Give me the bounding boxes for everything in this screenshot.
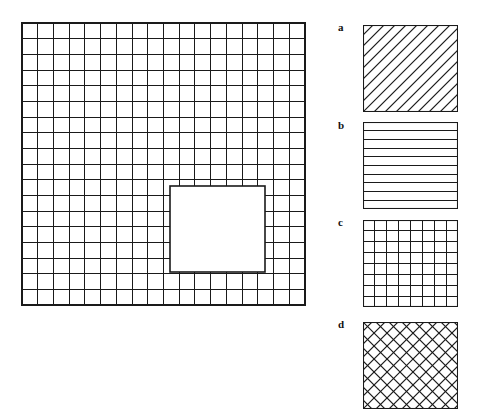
pattern-key: a b c xyxy=(330,0,480,413)
swatch-a-diagonal-hatch xyxy=(363,25,458,112)
swatch-c-svg xyxy=(363,220,458,307)
swatch-b-svg xyxy=(363,122,458,209)
figure-root: a b c xyxy=(0,0,480,413)
legend-label-b: b xyxy=(338,120,360,131)
legend-label-d: d xyxy=(338,319,360,330)
swatch-a-svg xyxy=(363,25,458,112)
legend-label-a: a xyxy=(338,22,360,33)
swatch-c-square-grid xyxy=(363,220,458,307)
swatch-d-diagonal-crosshatch xyxy=(363,322,458,409)
legend-label-c: c xyxy=(338,217,360,228)
main-grid-svg xyxy=(22,23,305,305)
swatch-d-svg xyxy=(363,322,458,409)
inner-white-square xyxy=(170,186,265,272)
main-grid-panel xyxy=(22,23,305,305)
swatch-b-horizontal-lines xyxy=(363,122,458,209)
